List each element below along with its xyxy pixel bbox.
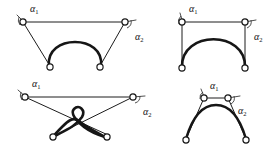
- bottom-left-alpha2-label: α2: [143, 106, 152, 118]
- panel-top-right: α1 α2: [178, 3, 262, 71]
- top-right-node-upper-right: [242, 19, 248, 25]
- top-left-alpha2-label: α2: [135, 31, 144, 43]
- top-left-left-leg: [23, 22, 50, 66]
- bottom-left-alpha1-label: α1: [32, 78, 41, 90]
- top-left-node-upper-right: [122, 19, 128, 25]
- bottom-right-node-lower-right: [243, 137, 249, 143]
- bottom-left-node-upper-left: [22, 94, 28, 100]
- top-right-node-lower-left: [179, 65, 185, 71]
- bottom-left-node-upper-right: [130, 94, 136, 100]
- panel-top-left: α1 α2: [17, 3, 144, 70]
- diagram-canvas: α1 α2 α1: [0, 0, 278, 153]
- top-right-thick-arc: [182, 39, 245, 67]
- bottom-right-node-upper-left: [201, 95, 207, 101]
- bottom-right-node-upper-right: [225, 95, 231, 101]
- top-left-thick-arc: [49, 42, 101, 66]
- top-left-node-lower-left: [47, 64, 53, 70]
- top-left-node-upper-left: [20, 19, 26, 25]
- bottom-left-node-lower-right: [104, 134, 110, 140]
- bottom-right-alpha1-label: α1: [210, 80, 219, 92]
- top-right-node-upper-left: [179, 19, 185, 25]
- top-right-alpha2-label: α2: [254, 31, 263, 43]
- bottom-right-node-lower-left: [183, 137, 189, 143]
- top-right-alpha1-label: α1: [189, 3, 198, 15]
- top-left-node-lower-right: [97, 64, 103, 70]
- bottom-right-thick-arc: [186, 105, 246, 139]
- panel-bottom-right: α1 α2: [183, 80, 249, 143]
- top-left-right-leg: [100, 22, 125, 66]
- bottom-right-alpha2-label: α2: [238, 105, 247, 117]
- top-right-node-lower-right: [242, 65, 248, 71]
- bottom-left-node-lower-left: [50, 134, 56, 140]
- top-left-alpha1-label: α1: [30, 3, 39, 15]
- figure-root: α1 α2 α1: [0, 0, 278, 153]
- panel-bottom-left: α1 α2: [18, 78, 152, 140]
